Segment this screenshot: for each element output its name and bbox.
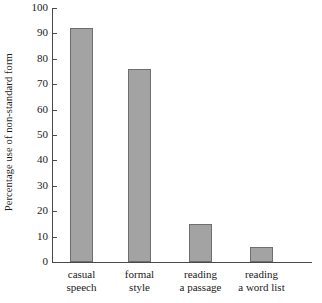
bars-layer	[0, 0, 322, 303]
bar	[70, 28, 93, 262]
bar-chart: Percentage use of non-standard form 0102…	[0, 0, 322, 303]
bar	[189, 224, 212, 262]
bar	[128, 69, 151, 262]
bar	[250, 247, 273, 262]
x-axis-category-label: readinga word list	[222, 268, 302, 294]
category-label-line-2: a word list	[222, 281, 302, 294]
category-label-line-1: reading	[222, 268, 302, 281]
